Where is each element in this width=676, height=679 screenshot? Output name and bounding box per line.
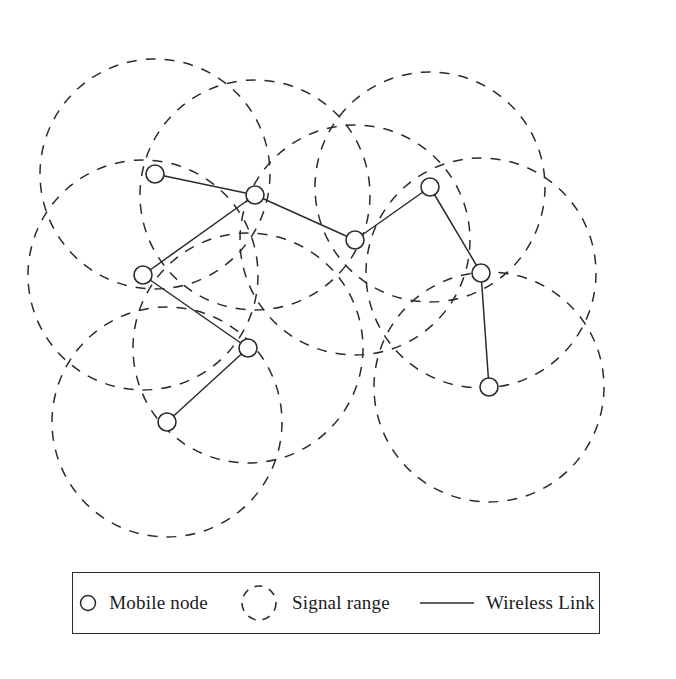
circle-outline-icon (77, 592, 99, 614)
mobile-node[interactable] (480, 378, 498, 396)
mobile-node[interactable] (146, 165, 164, 183)
legend-item-signal-range: Signal range (222, 580, 404, 626)
signal-range-layer (28, 59, 604, 537)
legend-item-wireless-link: Wireless Link (404, 592, 609, 614)
legend: Mobile node Signal range Wireless Link (72, 572, 600, 634)
line-segment-icon (418, 596, 476, 610)
mobile-node[interactable] (472, 264, 490, 282)
mobile-node[interactable] (346, 231, 364, 249)
legend-item-mobile-node: Mobile node (63, 592, 222, 614)
mobile-node[interactable] (239, 339, 257, 357)
wireless-link (143, 195, 255, 275)
wireless-link (481, 273, 489, 387)
wireless-link (143, 275, 248, 348)
legend-label-wireless-link: Wireless Link (486, 592, 595, 614)
wireless-link (255, 195, 355, 240)
wireless-link (355, 187, 430, 240)
dashed-circle-icon (236, 580, 282, 626)
wireless-link (155, 174, 255, 195)
mobile-node[interactable] (421, 178, 439, 196)
wireless-link (430, 187, 481, 273)
mobile-node[interactable] (246, 186, 264, 204)
wireless-link-layer (143, 174, 489, 422)
legend-label-signal-range: Signal range (292, 592, 390, 614)
mobile-node[interactable] (134, 266, 152, 284)
wireless-link (167, 348, 248, 422)
mobile-node[interactable] (158, 413, 176, 431)
legend-label-mobile-node: Mobile node (109, 592, 208, 614)
